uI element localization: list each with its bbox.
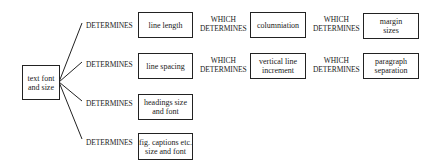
determines-label-row-4: DETERMINES	[86, 138, 133, 147]
box-columniation-text: columniation	[257, 21, 299, 30]
box-line-spacing: line spacing	[138, 53, 193, 79]
which-determines-label-r2-c1: WHICH DETERMINES	[200, 56, 247, 74]
box-margin-line-2: sizes	[380, 26, 403, 35]
box-fig-captions: fig. captions etc. size and font	[138, 133, 193, 160]
box-line-length-text: line length	[149, 21, 183, 30]
box-paragraph-separation: paragraph separation	[363, 53, 419, 79]
determines-text: DETERMINES	[200, 65, 247, 74]
which-determines-label-r2-c2: WHICH DETERMINES	[313, 56, 360, 74]
box-line-length: line length	[138, 12, 193, 38]
box-vertical-line-2: increment	[259, 66, 297, 75]
box-vertical-line-1: vertical line	[259, 57, 297, 66]
box-headings-size-and-font: headings size and font	[138, 94, 193, 120]
determines-label-row-1: DETERMINES	[86, 21, 133, 30]
box-paragraph-line-1: paragraph	[375, 57, 408, 66]
root-box-line-1: text font	[28, 74, 55, 83]
which-text: WHICH	[313, 56, 360, 65]
determines-text: DETERMINES	[313, 24, 360, 33]
box-margin-sizes: margin sizes	[363, 13, 419, 39]
root-box-text-font-and-size: text font and size	[22, 65, 60, 100]
which-text: WHICH	[200, 56, 247, 65]
box-headings-line-2: and font	[144, 107, 187, 116]
box-paragraph-line-2: separation	[375, 66, 408, 75]
determines-text: DETERMINES	[200, 24, 247, 33]
box-vertical-line-increment: vertical line increment	[250, 53, 306, 79]
box-headings-line-1: headings size	[144, 98, 187, 107]
determines-text: DETERMINES	[313, 65, 360, 74]
which-text: WHICH	[200, 15, 247, 24]
determines-label-row-2: DETERMINES	[86, 60, 133, 69]
box-margin-line-1: margin	[380, 17, 403, 26]
which-determines-label-r1-c1: WHICH DETERMINES	[200, 15, 247, 33]
box-line-spacing-text: line spacing	[146, 62, 184, 71]
box-fig-captions-line-2: size and font	[139, 147, 192, 156]
box-fig-captions-line-1: fig. captions etc.	[139, 138, 192, 147]
connector-line-1	[59, 23, 82, 82]
which-determines-label-r1-c2: WHICH DETERMINES	[313, 15, 360, 33]
which-text: WHICH	[313, 15, 360, 24]
determines-label-row-3: DETERMINES	[86, 99, 133, 108]
box-columniation: columniation	[250, 12, 306, 38]
connector-line-4	[59, 82, 82, 139]
root-box-line-2: and size	[28, 83, 55, 92]
